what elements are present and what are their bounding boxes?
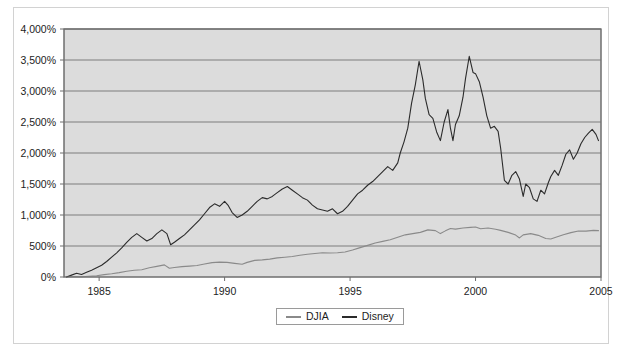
chart-border: 0%500%1,000%1,500%2,000%2,500%3,000%3,50…	[13, 7, 609, 344]
legend-entry-djia: DJIA	[286, 311, 329, 322]
y-axis-label: 0%	[14, 271, 56, 283]
y-axis-label: 2,000%	[14, 147, 56, 159]
x-axis-label: 2005	[589, 285, 612, 297]
x-axis-label: 1990	[213, 285, 236, 297]
legend-label: Disney	[362, 311, 394, 322]
chart-figure: … 0%500%1,000%1,500%2,000%2,500%3,000%3,…	[0, 0, 622, 360]
y-axis-label: 2,500%	[14, 116, 56, 128]
legend-line-icon	[286, 316, 301, 318]
legend-label: DJIA	[306, 311, 329, 322]
x-axis-label: 1995	[338, 285, 361, 297]
y-axis-label: 500%	[14, 240, 56, 252]
legend-entry-disney: Disney	[342, 311, 394, 322]
chart-legend: DJIADisney	[276, 308, 404, 325]
y-axis-label: 4,000%	[14, 23, 56, 35]
cropped-caption-strip: …	[0, 0, 622, 5]
cropped-caption-text: …	[8, 0, 18, 2]
y-axis-label: 3,500%	[14, 54, 56, 66]
x-axis-label: 2000	[464, 285, 487, 297]
y-axis-label: 1,500%	[14, 178, 56, 190]
legend-line-icon	[342, 316, 357, 318]
y-axis-label: 3,000%	[14, 85, 56, 97]
x-axis-label: 1985	[87, 285, 110, 297]
y-axis-label: 1,000%	[14, 209, 56, 221]
